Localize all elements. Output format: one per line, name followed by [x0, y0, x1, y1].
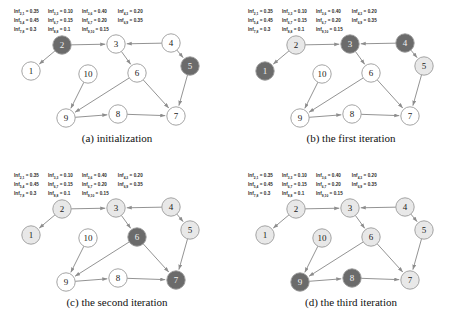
node-label-4: 4 — [169, 38, 174, 48]
node-layer: 12345678910 — [22, 34, 199, 127]
node-4: 4 — [396, 34, 414, 52]
node-10: 10 — [79, 65, 97, 83]
edge-3-6 — [355, 51, 364, 64]
node-5: 5 — [181, 221, 199, 239]
edge-8-7 — [361, 278, 399, 279]
edge-10-9 — [71, 246, 84, 272]
node-label-3: 3 — [348, 203, 353, 213]
node-4: 4 — [396, 198, 414, 216]
caption-a: (a) initialization — [0, 132, 234, 144]
panel-d: Inf2,1 = 0.35Inf3,3 = 0.10Inf3,6 = 0.40I… — [234, 164, 468, 327]
node-10: 10 — [313, 229, 331, 247]
edge-4-5 — [177, 50, 183, 58]
node-label-8: 8 — [350, 109, 355, 119]
panel-a: Inf2,1 = 0.35Inf3,3 = 0.10Inf3,6 = 0.40I… — [0, 0, 234, 163]
edge-3-6 — [355, 215, 364, 228]
node-label-1: 1 — [263, 230, 268, 240]
node-label-10: 10 — [318, 233, 328, 243]
node-label-9: 9 — [298, 113, 303, 123]
edge-5-7 — [413, 239, 422, 270]
edge-4-5 — [411, 50, 417, 58]
node-5: 5 — [181, 57, 199, 75]
node-label-7: 7 — [408, 111, 413, 121]
node-9: 9 — [291, 109, 309, 127]
node-label-1: 1 — [29, 66, 34, 76]
node-7: 7 — [167, 271, 185, 289]
node-label-9: 9 — [298, 277, 303, 287]
node-layer: 12345678910 — [256, 198, 433, 291]
node-layer: 12345678910 — [22, 198, 199, 291]
node-7: 7 — [401, 107, 419, 125]
edge-2-3 — [305, 44, 339, 45]
edge-5-7 — [413, 75, 422, 106]
edge-3-6 — [121, 215, 130, 228]
node-2: 2 — [287, 200, 305, 218]
edge-6-7 — [143, 244, 169, 272]
node-label-7: 7 — [174, 111, 179, 121]
node-label-9: 9 — [64, 277, 69, 287]
edge-10-9 — [305, 82, 318, 108]
node-label-5: 5 — [422, 61, 427, 71]
node-label-2: 2 — [294, 204, 299, 214]
edge-6-7 — [377, 80, 403, 108]
node-6: 6 — [128, 228, 146, 246]
node-label-8: 8 — [116, 109, 121, 119]
node-label-7: 7 — [408, 275, 413, 285]
node-label-8: 8 — [116, 273, 121, 283]
node-label-1: 1 — [29, 230, 34, 240]
node-label-3: 3 — [348, 39, 353, 49]
edge-9-8 — [75, 115, 107, 117]
node-label-1: 1 — [263, 66, 268, 76]
edge-8-7 — [127, 114, 165, 115]
edge-6-7 — [143, 80, 169, 108]
node-7: 7 — [167, 107, 185, 125]
edge-4-3 — [361, 43, 396, 44]
node-label-2: 2 — [294, 40, 299, 50]
caption-b: (b) the first iteration — [234, 132, 468, 144]
node-3: 3 — [341, 35, 359, 53]
node-6: 6 — [362, 228, 380, 246]
node-layer: 12345678910 — [256, 34, 433, 127]
edge-9-8 — [309, 115, 341, 117]
node-label-3: 3 — [114, 203, 119, 213]
node-8: 8 — [109, 105, 127, 123]
node-label-7: 7 — [174, 275, 179, 285]
node-label-2: 2 — [60, 204, 65, 214]
node-7: 7 — [401, 271, 419, 289]
node-3: 3 — [341, 199, 359, 217]
node-9: 9 — [57, 273, 75, 291]
edge-3-6 — [121, 51, 130, 64]
node-label-6: 6 — [369, 232, 374, 242]
node-8: 8 — [343, 269, 361, 287]
node-9: 9 — [291, 273, 309, 291]
node-5: 5 — [415, 221, 433, 239]
node-2: 2 — [287, 36, 305, 54]
node-label-4: 4 — [403, 202, 408, 212]
node-3: 3 — [107, 199, 125, 217]
node-3: 3 — [107, 35, 125, 53]
node-9: 9 — [57, 109, 75, 127]
node-label-2: 2 — [60, 40, 65, 50]
edge-2-3 — [71, 44, 105, 45]
edge-2-3 — [71, 208, 105, 209]
edge-4-3 — [361, 207, 396, 208]
edge-4-3 — [127, 207, 162, 208]
node-label-9: 9 — [64, 113, 69, 123]
node-4: 4 — [162, 198, 180, 216]
edge-9-8 — [309, 279, 341, 281]
node-label-6: 6 — [135, 68, 140, 78]
node-2: 2 — [53, 200, 71, 218]
edge-2-1 — [273, 51, 289, 64]
node-6: 6 — [362, 64, 380, 82]
node-5: 5 — [415, 57, 433, 75]
edge-5-7 — [179, 75, 188, 106]
node-label-10: 10 — [318, 69, 328, 79]
node-1: 1 — [256, 62, 274, 80]
edge-10-9 — [71, 82, 84, 108]
edge-6-7 — [377, 244, 403, 272]
node-label-5: 5 — [422, 225, 427, 235]
edge-4-5 — [177, 214, 183, 222]
node-10: 10 — [79, 229, 97, 247]
edge-5-7 — [179, 239, 188, 270]
caption-d: (d) the third iteration — [234, 296, 468, 308]
